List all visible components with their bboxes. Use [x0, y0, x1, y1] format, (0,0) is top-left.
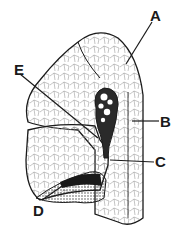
label-d: D: [33, 203, 44, 218]
diagram-figure: [0, 0, 180, 232]
label-e: E: [14, 62, 24, 77]
label-a: A: [150, 8, 161, 23]
label-c: C: [155, 154, 166, 169]
label-b: B: [160, 114, 171, 129]
